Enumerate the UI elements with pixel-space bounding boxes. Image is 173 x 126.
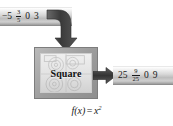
output-values-list: 25 9 25 0 9: [118, 68, 158, 82]
output-value-0: 25: [118, 71, 128, 81]
function-machine-box: Square: [34, 47, 98, 99]
input-value-3: 3: [34, 12, 39, 22]
function-machine-figure: −5 3 5 0 3: [0, 0, 173, 126]
input-value-0: −5: [2, 12, 12, 22]
function-machine-face: Square: [40, 53, 92, 93]
curved-down-arrow-icon: [46, 8, 80, 52]
function-formula-caption: f(x)=x2: [0, 104, 173, 116]
input-values-list: −5 3 5 0 3: [2, 9, 39, 23]
output-value-1-numerator: 9: [133, 68, 138, 75]
output-value-2: 0: [144, 71, 149, 81]
machine-label: Square: [41, 68, 91, 79]
formula-exponent: 2: [98, 104, 101, 111]
output-value-1-fraction: 9 25: [132, 68, 141, 82]
formula-operator: =: [85, 105, 94, 116]
output-value-3: 9: [153, 71, 158, 81]
input-value-2: 0: [25, 12, 30, 22]
output-value-1-denominator: 25: [132, 75, 141, 83]
input-value-1-numerator: 3: [16, 9, 21, 16]
formula-lhs: f(x): [71, 105, 85, 116]
input-value-1-fraction: 3 5: [16, 9, 21, 23]
input-value-1-denominator: 5: [16, 16, 21, 24]
output-values-bar: 25 9 25 0 9: [113, 66, 173, 85]
